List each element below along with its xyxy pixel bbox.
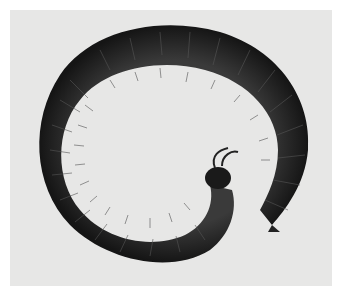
antennae [214,148,238,168]
millipede-image [10,10,332,286]
legs [74,68,270,228]
photo-frame [10,10,332,286]
millipede-tail [268,225,280,232]
millipede-head [205,167,231,189]
caption [0,289,341,298]
millipede-body [39,25,308,262]
